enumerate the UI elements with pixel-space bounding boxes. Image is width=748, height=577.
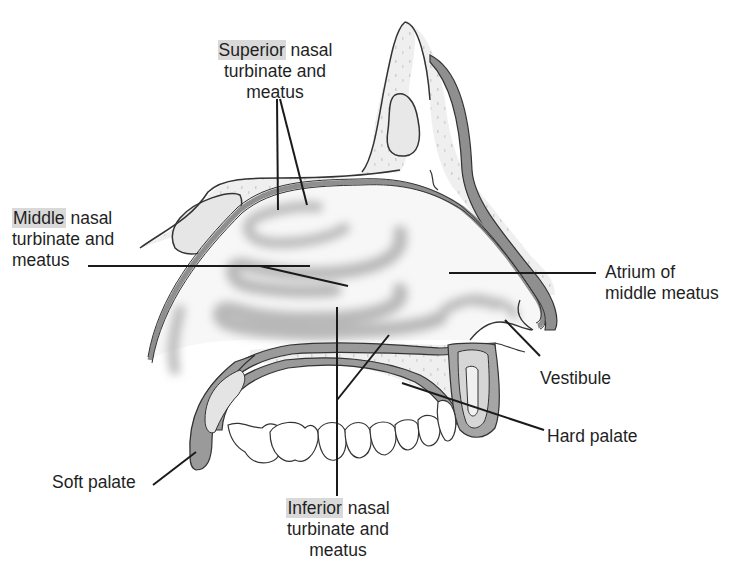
label-atrium-line1: Atrium of [605, 262, 719, 283]
label-inferior-line2: turbinate and [268, 519, 408, 540]
label-inferior-line1: nasal [343, 498, 390, 518]
label-inferior-line3: meatus [268, 540, 408, 561]
label-hard-palate: Hard palate [547, 426, 637, 447]
label-middle-line3: meatus [12, 250, 114, 271]
teeth [228, 401, 456, 463]
label-middle-line2: turbinate and [12, 229, 114, 250]
label-superior-turbinate: Superior nasal turbinate and meatus [205, 40, 345, 103]
label-superior-line1: nasal [286, 40, 333, 60]
soft-palate-leader [153, 452, 196, 485]
label-vestibule: Vestibule [540, 368, 611, 389]
frontal-sinus [387, 94, 419, 156]
label-middle-line1: nasal [66, 208, 113, 228]
label-superior-highlight: Superior [218, 40, 286, 60]
label-inferior-turbinate: Inferior nasal turbinate and meatus [268, 498, 408, 561]
label-superior-line2: turbinate and [205, 61, 345, 82]
label-superior-line3: meatus [205, 82, 345, 103]
label-middle-turbinate: Middle nasal turbinate and meatus [12, 208, 114, 271]
label-atrium: Atrium of middle meatus [605, 262, 719, 304]
label-inferior-highlight: Inferior [286, 498, 342, 518]
superior-leader-1 [277, 99, 278, 210]
label-atrium-line2: middle meatus [605, 283, 719, 304]
label-soft-palate: Soft palate [52, 472, 136, 493]
label-middle-highlight: Middle [12, 208, 66, 228]
